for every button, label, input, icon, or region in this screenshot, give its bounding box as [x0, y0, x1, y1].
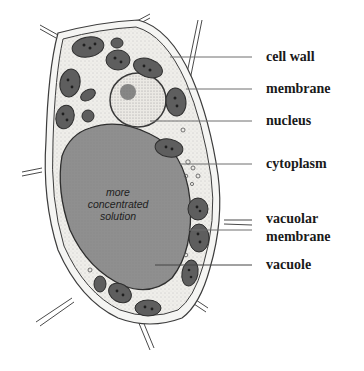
- label-nucleus: nucleus: [266, 112, 311, 130]
- vacuole-annotation-line3: solution: [73, 210, 163, 222]
- label-vacuolar-membrane: membrane: [266, 228, 331, 246]
- label-cell-wall: cell wall: [266, 48, 315, 66]
- nucleus-shape: [110, 73, 166, 127]
- label-vacuolar: vacuolar: [266, 210, 318, 228]
- vacuole-annotation: more concentrated solution: [73, 186, 163, 222]
- vacuole-annotation-line2: concentrated: [73, 198, 163, 210]
- vacuole-annotation-line1: more: [73, 186, 163, 198]
- label-membrane: membrane: [266, 80, 331, 98]
- label-vacuole: vacuole: [266, 256, 311, 274]
- label-cytoplasm: cytoplasm: [266, 155, 327, 173]
